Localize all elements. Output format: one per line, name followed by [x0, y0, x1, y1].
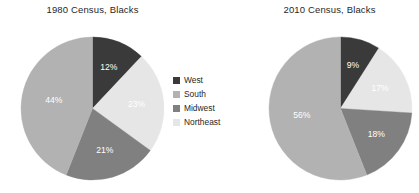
legend-label-northeast: Northeast — [184, 118, 220, 127]
legend-item-northeast: Northeast — [173, 116, 237, 129]
legend-label-west: West — [184, 76, 203, 85]
legend-label-midwest: Midwest — [184, 104, 215, 113]
pie-chart-1980: 12%23%21%44% — [21, 30, 164, 187]
legend-item-south: South — [173, 88, 237, 101]
pie-slice-label-south: 56% — [293, 110, 311, 120]
chart-legend: WestSouthMidwestNortheast — [173, 74, 237, 130]
legend-swatch-midwest — [173, 105, 180, 112]
legend-swatch-northeast — [173, 119, 180, 126]
pie-chart-figure: 1980 Census, Blacks 12%23%21%44% WestSou… — [0, 0, 419, 193]
pie-slice-label-midwest: 18% — [368, 129, 386, 139]
legend-item-west: West — [173, 74, 237, 87]
pie-svg-2010: 9%17%18%56% — [269, 30, 412, 187]
chart-panel-1980: 1980 Census, Blacks 12%23%21%44% — [0, 0, 185, 193]
chart-title-1980: 1980 Census, Blacks — [0, 4, 213, 15]
legend-swatch-south — [173, 91, 180, 98]
pie-svg-1980: 12%23%21%44% — [21, 30, 164, 187]
pie-slice-label-northeast: 23% — [128, 99, 146, 109]
pie-slice-label-west: 9% — [347, 60, 360, 70]
pie-chart-2010: 9%17%18%56% — [269, 30, 412, 187]
chart-panel-2010: 2010 Census, Blacks 9%17%18%56% — [240, 0, 419, 193]
legend-swatch-west — [173, 77, 180, 84]
pie-slice-label-west: 12% — [100, 62, 118, 72]
legend-label-south: South — [184, 90, 206, 99]
chart-title-2010: 2010 Census, Blacks — [240, 4, 419, 15]
pie-slice-label-south: 44% — [45, 95, 63, 105]
legend-item-midwest: Midwest — [173, 102, 237, 115]
pie-slice-label-midwest: 21% — [96, 145, 114, 155]
pie-slice-label-northeast: 17% — [371, 83, 389, 93]
